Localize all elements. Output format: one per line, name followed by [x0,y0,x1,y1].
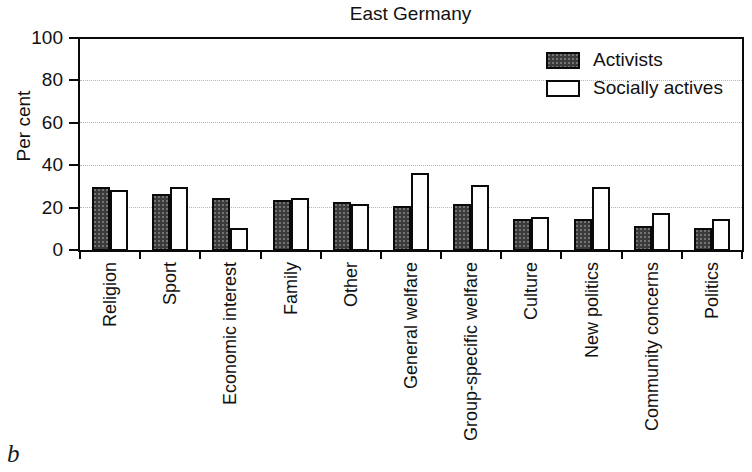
gridline-60 [80,122,742,123]
bar-activists-general-welfare [393,206,411,251]
bar-chart-figure: East Germany Per cent 020406080100Religi… [0,0,752,472]
legend-label-activists: Activists [593,49,663,71]
x-tick-mark-2 [199,250,201,259]
bar-socially-actives-family [291,198,309,251]
legend-row-socially-actives: Socially actives [546,77,723,99]
x-category-label-sport: Sport [160,262,181,305]
x-category-label-other: Other [340,262,361,307]
x-category-label-culture: Culture [521,262,542,320]
x-category-label-group-specific-welfare: Group-specific welfare [461,262,482,441]
gridline-40 [80,165,742,166]
y-tick-label-40: 40 [0,154,63,176]
x-category-label-family: Family [280,262,301,315]
figure-panel-label: b [7,440,20,468]
bar-socially-actives-economic-interest [230,228,248,251]
bar-activists-economic-interest [212,198,230,251]
chart-title: East Germany [79,3,742,25]
y-tick-mark-100 [69,37,78,39]
legend: Activists Socially actives [546,49,723,105]
x-tick-mark-8 [560,250,562,259]
bar-activists-politics [694,228,712,251]
y-tick-mark-0 [69,249,78,251]
legend-row-activists: Activists [546,49,723,71]
bar-activists-culture [513,219,531,251]
plot-top-border [78,37,744,39]
x-tick-mark-11 [741,250,743,259]
x-tick-mark-0 [79,250,81,259]
bar-activists-group-specific-welfare [453,204,471,251]
bar-activists-sport [152,194,170,251]
y-tick-mark-20 [69,207,78,209]
y-tick-mark-60 [69,122,78,124]
bar-socially-actives-group-specific-welfare [471,185,489,251]
x-category-label-community-concerns: Community concerns [641,262,662,431]
bar-socially-actives-sport [170,187,188,251]
plot-right-border [742,37,744,252]
x-category-label-politics: Politics [701,262,722,319]
socially-actives-swatch-icon [546,80,580,97]
y-axis-line [78,37,80,252]
x-tick-mark-7 [500,250,502,259]
activists-swatch-icon [546,52,580,69]
x-category-label-general-welfare: General welfare [401,262,422,389]
x-tick-mark-4 [320,250,322,259]
bar-socially-actives-other [351,204,369,251]
y-tick-label-80: 80 [0,69,63,91]
y-tick-label-100: 100 [0,27,63,49]
bar-socially-actives-community-concerns [652,213,670,251]
bar-socially-actives-religion [110,190,128,251]
x-category-label-religion: Religion [100,262,121,327]
y-tick-mark-40 [69,164,78,166]
bar-socially-actives-new-politics [592,187,610,251]
bar-activists-other [333,202,351,251]
y-tick-label-60: 60 [0,112,63,134]
x-category-label-economic-interest: Economic interest [220,262,241,405]
y-tick-label-20: 20 [0,197,63,219]
y-tick-label-0: 0 [0,239,63,261]
bar-activists-religion [92,187,110,251]
bar-socially-actives-general-welfare [411,173,429,251]
x-tick-mark-9 [621,250,623,259]
x-tick-mark-3 [260,250,262,259]
bar-socially-actives-culture [531,217,549,251]
x-category-label-new-politics: New politics [581,262,602,358]
x-tick-mark-1 [139,250,141,259]
bar-activists-family [273,200,291,251]
legend-label-socially-actives: Socially actives [593,77,723,99]
x-tick-mark-5 [380,250,382,259]
x-tick-mark-10 [681,250,683,259]
bar-activists-new-politics [574,219,592,251]
y-tick-mark-80 [69,79,78,81]
x-tick-mark-6 [440,250,442,259]
bar-socially-actives-politics [712,219,730,251]
bar-activists-community-concerns [634,226,652,251]
